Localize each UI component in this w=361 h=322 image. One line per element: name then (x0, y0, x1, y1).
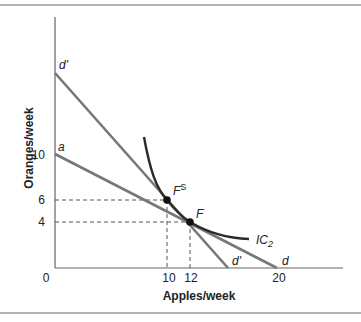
point-f (186, 218, 194, 226)
label-ic2: IC2 (256, 233, 273, 249)
label-fs: FS (173, 182, 186, 198)
y-tick-6: 6 (38, 193, 45, 207)
x-tick-12: 12 (184, 271, 198, 285)
x-tick-10: 10 (162, 271, 176, 285)
x-axis-title: Apples/week (163, 289, 236, 303)
label-a: a (58, 140, 65, 154)
budget-line-d-prime (55, 73, 228, 268)
label-d-prime-bottom: d' (232, 254, 242, 268)
point-fs (163, 196, 171, 204)
origin-label: 0 (43, 271, 50, 285)
budget-line-ad (55, 154, 277, 268)
x-tick-20: 20 (272, 271, 286, 285)
label-d: d (282, 254, 289, 268)
label-f: F (196, 207, 204, 221)
y-axis-title: Oranges/week (22, 107, 36, 189)
label-d-prime-top: d' (59, 58, 69, 72)
chart-canvas: 10 6 4 0 10 12 20 Apples/week Oranges/we… (0, 0, 361, 322)
indifference-curve-ic2 (144, 137, 249, 239)
y-tick-4: 4 (38, 215, 45, 229)
